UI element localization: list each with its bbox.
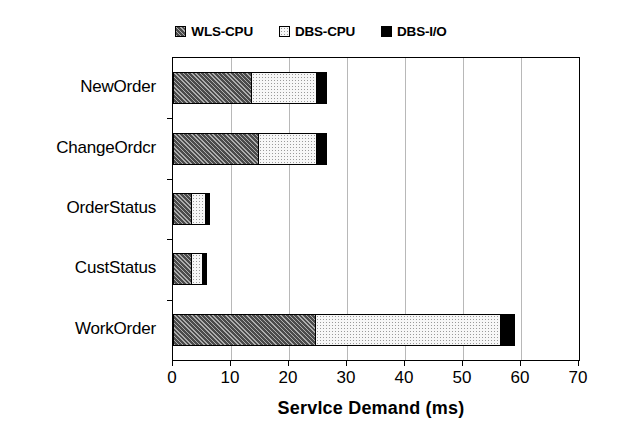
x-axis-tick-label: 50 bbox=[453, 368, 472, 388]
x-axis-tick bbox=[520, 360, 521, 366]
bar-segment-dbs-cpu bbox=[251, 73, 316, 103]
chart-legend: WLS-CPU DBS-CPU DBS-I/O bbox=[0, 24, 622, 39]
x-axis-tick bbox=[288, 360, 289, 366]
x-axis-tick bbox=[462, 360, 463, 366]
legend-entry-dbs-cpu: DBS-CPU bbox=[279, 24, 355, 39]
bar-segment-dbs-i-o bbox=[316, 134, 326, 164]
stacked-bar[interactable] bbox=[173, 133, 327, 165]
bar-segment-dbs-i-o bbox=[500, 315, 514, 345]
x-axis-tick-label: 60 bbox=[511, 368, 530, 388]
bar-segment-wls-cpu bbox=[174, 73, 251, 103]
bar-segment-wls-cpu bbox=[174, 134, 258, 164]
x-axis-tick bbox=[346, 360, 347, 366]
y-axis-label-custstatus: CustStatus bbox=[75, 258, 156, 278]
plot-area bbox=[172, 57, 580, 361]
bar-segment-dbs-cpu bbox=[315, 315, 500, 345]
stacked-bar[interactable] bbox=[173, 314, 515, 346]
x-axis-title: Servlce Demand (ms) bbox=[0, 398, 622, 419]
bar-segment-wls-cpu bbox=[174, 194, 191, 224]
bar-segment-dbs-i-o bbox=[316, 73, 326, 103]
stacked-bar[interactable] bbox=[173, 193, 210, 225]
bar-segment-dbs-cpu bbox=[191, 194, 205, 224]
x-axis-tick-label: 70 bbox=[569, 368, 588, 388]
x-axis-title-text: Servlce Demand (ms) bbox=[158, 398, 465, 418]
legend-label-wls-cpu: WLS-CPU bbox=[191, 24, 253, 39]
legend-entry-wls-cpu: WLS-CPU bbox=[175, 24, 253, 39]
bar-segment-dbs-i-o bbox=[205, 194, 209, 224]
x-axis-tick-label: 30 bbox=[337, 368, 356, 388]
legend-entry-dbs-io: DBS-I/O bbox=[381, 24, 447, 39]
x-axis-tick-label: 0 bbox=[167, 368, 176, 388]
y-axis-label-changeordcr: ChangeOrdcr bbox=[56, 138, 156, 158]
x-axis-tick bbox=[172, 360, 173, 366]
x-axis-tick bbox=[230, 360, 231, 366]
bar-segment-dbs-cpu bbox=[191, 254, 202, 284]
stacked-bar[interactable] bbox=[173, 253, 207, 285]
stacked-bar[interactable] bbox=[173, 72, 327, 104]
y-axis-tick bbox=[167, 300, 173, 301]
x-axis-tick-label: 20 bbox=[279, 368, 298, 388]
bar-row bbox=[173, 239, 579, 299]
y-axis-labels: NewOrderChangeOrdcrOrderStatusCustStatus… bbox=[0, 57, 164, 359]
x-axis-tick-label: 10 bbox=[221, 368, 240, 388]
legend-label-dbs-io: DBS-I/O bbox=[397, 24, 447, 39]
legend-swatch-icon-dbs-cpu bbox=[279, 26, 290, 37]
y-axis-label-workorder: WorkOrder bbox=[75, 319, 156, 339]
y-axis-label-orderstatus: OrderStatus bbox=[67, 198, 156, 218]
legend-label-dbs-cpu: DBS-CPU bbox=[295, 24, 355, 39]
y-axis-label-neworder: NewOrder bbox=[80, 77, 156, 97]
legend-swatch-icon-wls-cpu bbox=[175, 26, 186, 37]
chart-figure: WLS-CPU DBS-CPU DBS-I/O NewOrderChangeOr… bbox=[0, 0, 622, 448]
bar-row bbox=[173, 58, 579, 118]
x-axis-tick-labels: 010203040506070 bbox=[172, 368, 580, 392]
x-axis-ticks bbox=[172, 360, 580, 368]
bar-row bbox=[173, 118, 579, 178]
bar-segment-wls-cpu bbox=[174, 254, 191, 284]
x-axis-tick bbox=[404, 360, 405, 366]
y-axis-tick bbox=[167, 239, 173, 240]
bar-segment-dbs-cpu bbox=[258, 134, 316, 164]
bar-row bbox=[173, 179, 579, 239]
bar-segment-dbs-i-o bbox=[202, 254, 206, 284]
bar-segment-wls-cpu bbox=[174, 315, 315, 345]
y-axis-tick bbox=[167, 179, 173, 180]
bar-row bbox=[173, 300, 579, 360]
x-axis-tick-label: 40 bbox=[395, 368, 414, 388]
x-axis-tick bbox=[578, 360, 579, 366]
y-axis-tick bbox=[167, 118, 173, 119]
legend-swatch-icon-dbs-io bbox=[381, 26, 392, 37]
